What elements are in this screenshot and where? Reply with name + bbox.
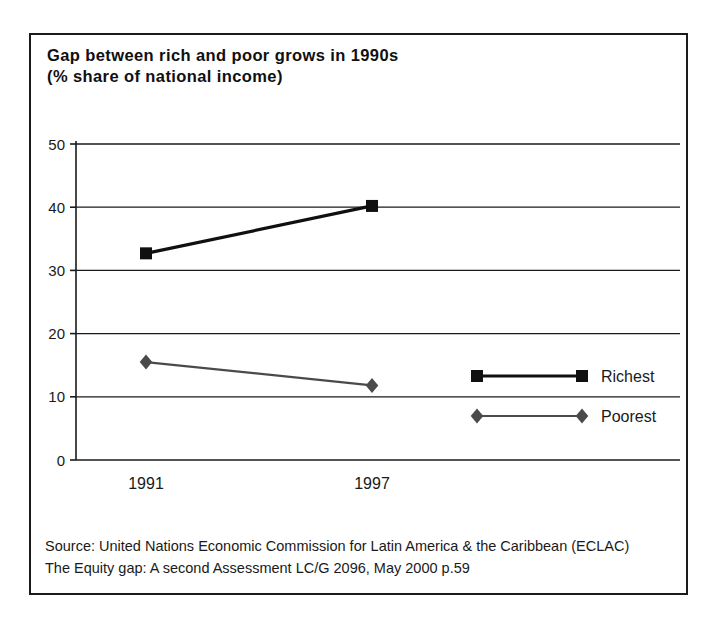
series-line-poorest	[146, 362, 372, 385]
chart-figure-frame: Gap between rich and poor grows in 1990s…	[29, 33, 688, 595]
legend-marker-left-richest	[471, 370, 483, 382]
x-category-label-1997: 1997	[354, 475, 390, 492]
legend-item-poorest: Poorest	[471, 408, 657, 425]
x-category-label-group: 19911997	[128, 475, 390, 492]
legend-label-poorest: Poorest	[601, 408, 657, 425]
data-point-richest-1997	[366, 200, 378, 212]
y-tick-label-20: 20	[48, 325, 65, 342]
x-category-label-1991: 1991	[128, 475, 164, 492]
data-series-group	[140, 200, 379, 393]
source-line-2: The Equity gap: A second Assessment LC/G…	[45, 557, 685, 579]
legend-marker-right-richest	[576, 370, 588, 382]
source-line-1: Source: United Nations Economic Commissi…	[45, 535, 685, 557]
line-chart-svg: 01020304050 19911997 RichestPoorest	[31, 35, 690, 597]
chart-source-note: Source: United Nations Economic Commissi…	[45, 535, 685, 579]
y-tick-label-50: 50	[48, 136, 65, 153]
y-tick-label-group: 01020304050	[48, 136, 65, 469]
y-tick-label-40: 40	[48, 199, 65, 216]
data-point-poorest-1997	[366, 378, 379, 393]
chart-plot-area: 01020304050 19911997 RichestPoorest	[31, 35, 690, 597]
y-tick-label-30: 30	[48, 262, 65, 279]
gridline-group	[76, 144, 680, 460]
legend-marker-right-poorest	[576, 409, 589, 424]
y-tick-label-10: 10	[48, 388, 65, 405]
legend-item-richest: Richest	[471, 368, 655, 385]
y-tick-label-0: 0	[57, 452, 65, 469]
legend-label-richest: Richest	[601, 368, 655, 385]
series-line-richest	[146, 206, 372, 253]
data-point-richest-1991	[140, 247, 152, 259]
legend-marker-left-poorest	[471, 409, 484, 424]
series-poorest	[140, 355, 379, 393]
y-tick-group	[70, 144, 76, 460]
data-point-poorest-1991	[140, 355, 153, 370]
series-richest	[140, 200, 378, 259]
